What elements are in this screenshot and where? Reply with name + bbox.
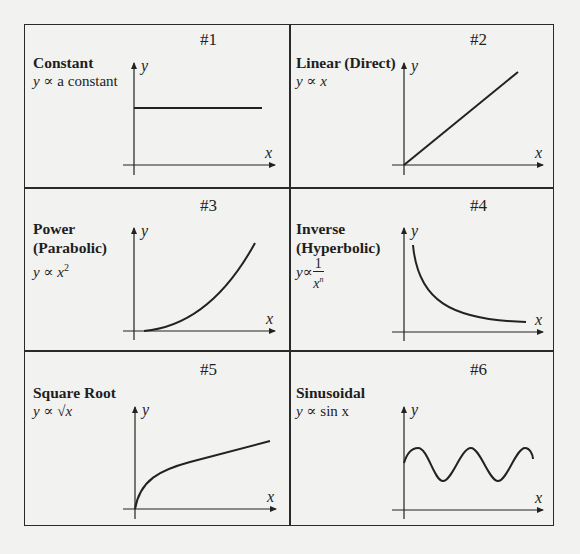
y-axis-label: y <box>409 401 419 419</box>
sinusoidal-graph: y x <box>0 0 580 554</box>
sine-curve <box>404 448 533 481</box>
x-axis-label: x <box>534 489 542 506</box>
